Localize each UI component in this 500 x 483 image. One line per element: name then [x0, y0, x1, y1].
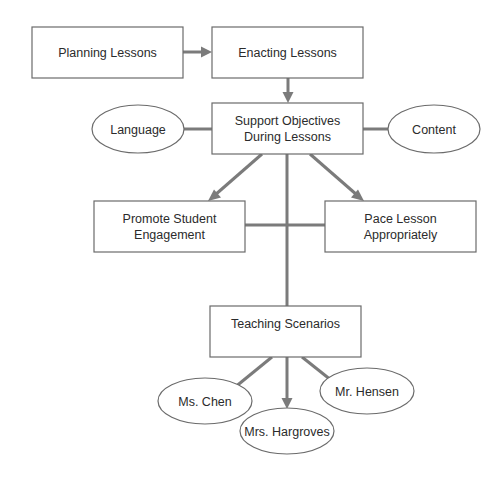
label-chen: Ms. Chen — [178, 395, 232, 409]
arrowhead-icon — [283, 92, 294, 103]
label-hensen: Mr. Hensen — [335, 385, 399, 399]
box-engagement — [94, 201, 245, 252]
box-support — [212, 103, 363, 154]
box-pace — [325, 201, 476, 252]
label-hargroves: Mrs. Hargroves — [244, 425, 329, 439]
label-pace-line2: Appropriately — [364, 228, 438, 242]
box-scenarios — [210, 306, 361, 357]
node-promote-engagement: Promote Student Engagement — [94, 201, 245, 252]
arrowhead-icon — [282, 398, 293, 409]
node-ms-chen: Ms. Chen — [158, 378, 252, 424]
label-support-line2: During Lessons — [244, 130, 331, 144]
label-enacting: Enacting Lessons — [238, 46, 337, 60]
node-planning-lessons: Planning Lessons — [32, 27, 183, 78]
arrowhead-icon — [201, 47, 212, 58]
node-content: Content — [388, 105, 480, 153]
label-engagement-line1: Promote Student — [123, 212, 217, 226]
label-engagement-line2: Engagement — [134, 228, 205, 242]
label-scenarios: Teaching Scenarios — [231, 317, 340, 331]
node-language: Language — [92, 105, 184, 153]
node-teaching-scenarios: Teaching Scenarios — [210, 306, 361, 357]
label-planning: Planning Lessons — [58, 46, 157, 60]
node-mr-hensen: Mr. Hensen — [320, 368, 414, 414]
label-support-line1: Support Objectives — [235, 114, 341, 128]
label-content: Content — [412, 123, 456, 137]
node-pace-lesson: Pace Lesson Appropriately — [325, 201, 476, 252]
label-language: Language — [110, 123, 166, 137]
node-mrs-hargroves: Mrs. Hargroves — [240, 408, 334, 454]
node-support-objectives: Support Objectives During Lessons — [212, 103, 363, 154]
edge-support-to-engagement — [215, 154, 262, 195]
label-pace-line1: Pace Lesson — [364, 212, 436, 226]
edge-scenarios-to-chen — [234, 357, 272, 388]
edge-support-to-pace — [310, 154, 357, 195]
node-enacting-lessons: Enacting Lessons — [212, 27, 363, 78]
flowchart-diagram: Planning Lessons Enacting Lessons Suppor… — [0, 0, 500, 483]
